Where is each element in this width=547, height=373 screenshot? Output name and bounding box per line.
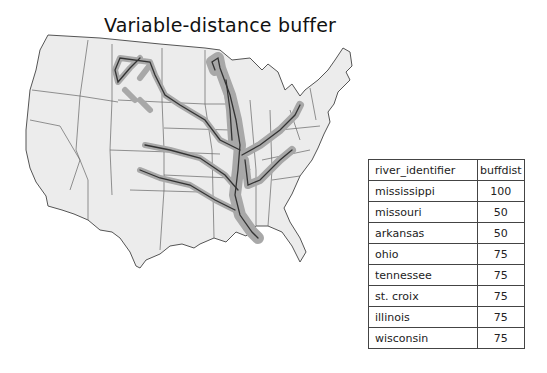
table-row: tennessee75 xyxy=(369,265,525,286)
table-header-row: river_identifier buffdist xyxy=(369,160,525,181)
table-row: ohio75 xyxy=(369,244,525,265)
buffer-distance: 75 xyxy=(478,307,525,328)
buffer-distance: 100 xyxy=(478,181,525,202)
buffer-distance: 75 xyxy=(478,265,525,286)
table-row: wisconsin75 xyxy=(369,328,525,349)
river-name: arkansas xyxy=(369,223,478,244)
column-header-river-identifier: river_identifier xyxy=(369,160,478,181)
table-row: arkansas50 xyxy=(369,223,525,244)
buffer-distance: 75 xyxy=(478,328,525,349)
table-row: missouri50 xyxy=(369,202,525,223)
column-header-buffdist: buffdist xyxy=(478,160,525,181)
river-name: st. croix xyxy=(369,286,478,307)
buffer-distance: 75 xyxy=(478,286,525,307)
buffer-distance: 75 xyxy=(478,244,525,265)
table-row: mississippi100 xyxy=(369,181,525,202)
attribute-table: river_identifier buffdist mississippi100… xyxy=(368,159,525,349)
us-map xyxy=(0,0,360,373)
table-row: illinois75 xyxy=(369,307,525,328)
river-name: tennessee xyxy=(369,265,478,286)
river-name: wisconsin xyxy=(369,328,478,349)
buffer-distance: 50 xyxy=(478,223,525,244)
river-name: mississippi xyxy=(369,181,478,202)
table-row: st. croix75 xyxy=(369,286,525,307)
river-name: ohio xyxy=(369,244,478,265)
buffer-distance: 50 xyxy=(478,202,525,223)
river-name: illinois xyxy=(369,307,478,328)
river-name: missouri xyxy=(369,202,478,223)
